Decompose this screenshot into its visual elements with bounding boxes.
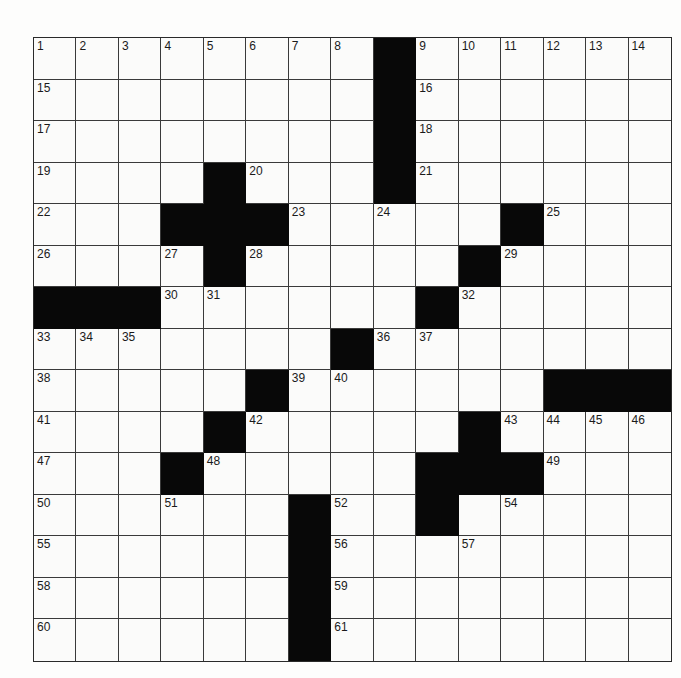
grid-cell[interactable] xyxy=(246,329,288,371)
grid-cell[interactable] xyxy=(331,287,373,329)
grid-cell[interactable]: 44 xyxy=(544,412,586,454)
grid-cell[interactable] xyxy=(119,578,161,620)
grid-cell[interactable]: 25 xyxy=(544,204,586,246)
grid-cell[interactable] xyxy=(629,453,671,495)
grid-cell[interactable] xyxy=(331,412,373,454)
grid-cell[interactable]: 22 xyxy=(34,204,76,246)
grid-cell[interactable] xyxy=(331,246,373,288)
grid-cell[interactable] xyxy=(544,287,586,329)
grid-cell[interactable] xyxy=(76,246,118,288)
grid-cell[interactable] xyxy=(119,412,161,454)
grid-cell[interactable]: 38 xyxy=(34,370,76,412)
grid-cell[interactable] xyxy=(204,121,246,163)
grid-cell[interactable]: 36 xyxy=(374,329,416,371)
grid-cell[interactable]: 9 xyxy=(416,38,458,80)
grid-cell[interactable]: 1 xyxy=(34,38,76,80)
grid-cell[interactable] xyxy=(586,578,628,620)
grid-cell[interactable] xyxy=(161,536,203,578)
grid-cell[interactable]: 58 xyxy=(34,578,76,620)
grid-cell[interactable] xyxy=(629,619,671,661)
grid-cell[interactable] xyxy=(76,619,118,661)
grid-cell[interactable] xyxy=(544,578,586,620)
grid-cell[interactable] xyxy=(459,495,501,537)
grid-cell[interactable] xyxy=(501,121,543,163)
grid-cell[interactable] xyxy=(586,204,628,246)
grid-cell[interactable] xyxy=(459,370,501,412)
grid-cell[interactable] xyxy=(416,536,458,578)
grid-cell[interactable] xyxy=(501,329,543,371)
grid-cell[interactable]: 46 xyxy=(629,412,671,454)
grid-cell[interactable] xyxy=(586,121,628,163)
grid-cell[interactable] xyxy=(586,329,628,371)
grid-cell[interactable]: 24 xyxy=(374,204,416,246)
grid-cell[interactable]: 20 xyxy=(246,163,288,205)
grid-cell[interactable] xyxy=(161,121,203,163)
grid-cell[interactable] xyxy=(544,536,586,578)
grid-cell[interactable]: 47 xyxy=(34,453,76,495)
grid-cell[interactable] xyxy=(586,80,628,122)
grid-cell[interactable] xyxy=(204,578,246,620)
grid-cell[interactable] xyxy=(204,370,246,412)
grid-cell[interactable] xyxy=(501,536,543,578)
grid-cell[interactable]: 4 xyxy=(161,38,203,80)
grid-cell[interactable] xyxy=(289,246,331,288)
grid-cell[interactable]: 54 xyxy=(501,495,543,537)
grid-cell[interactable] xyxy=(76,536,118,578)
grid-cell[interactable] xyxy=(289,287,331,329)
grid-cell[interactable]: 30 xyxy=(161,287,203,329)
grid-cell[interactable] xyxy=(629,287,671,329)
grid-cell[interactable] xyxy=(161,412,203,454)
grid-cell[interactable]: 17 xyxy=(34,121,76,163)
grid-cell[interactable] xyxy=(331,80,373,122)
grid-cell[interactable]: 51 xyxy=(161,495,203,537)
grid-cell[interactable] xyxy=(374,412,416,454)
grid-cell[interactable] xyxy=(374,495,416,537)
grid-cell[interactable] xyxy=(161,163,203,205)
grid-cell[interactable] xyxy=(544,329,586,371)
grid-cell[interactable] xyxy=(586,495,628,537)
grid-cell[interactable]: 14 xyxy=(629,38,671,80)
grid-cell[interactable]: 6 xyxy=(246,38,288,80)
grid-cell[interactable] xyxy=(119,121,161,163)
grid-cell[interactable]: 56 xyxy=(331,536,373,578)
grid-cell[interactable] xyxy=(374,536,416,578)
grid-cell[interactable] xyxy=(416,204,458,246)
grid-cell[interactable] xyxy=(629,80,671,122)
grid-cell[interactable]: 27 xyxy=(161,246,203,288)
grid-cell[interactable]: 26 xyxy=(34,246,76,288)
grid-cell[interactable] xyxy=(161,619,203,661)
grid-cell[interactable]: 41 xyxy=(34,412,76,454)
grid-cell[interactable] xyxy=(204,80,246,122)
grid-cell[interactable] xyxy=(161,370,203,412)
grid-cell[interactable]: 8 xyxy=(331,38,373,80)
grid-cell[interactable] xyxy=(544,246,586,288)
grid-cell[interactable] xyxy=(76,412,118,454)
grid-cell[interactable] xyxy=(501,370,543,412)
grid-cell[interactable] xyxy=(586,246,628,288)
grid-cell[interactable] xyxy=(289,453,331,495)
grid-cell[interactable] xyxy=(374,370,416,412)
grid-cell[interactable] xyxy=(289,163,331,205)
grid-cell[interactable] xyxy=(629,246,671,288)
grid-cell[interactable] xyxy=(246,287,288,329)
grid-cell[interactable] xyxy=(586,453,628,495)
grid-cell[interactable] xyxy=(416,578,458,620)
grid-cell[interactable] xyxy=(629,495,671,537)
grid-cell[interactable]: 5 xyxy=(204,38,246,80)
grid-cell[interactable]: 3 xyxy=(119,38,161,80)
grid-cell[interactable] xyxy=(629,329,671,371)
grid-cell[interactable] xyxy=(331,163,373,205)
grid-cell[interactable]: 60 xyxy=(34,619,76,661)
grid-cell[interactable] xyxy=(374,246,416,288)
grid-cell[interactable] xyxy=(204,495,246,537)
grid-cell[interactable]: 55 xyxy=(34,536,76,578)
grid-cell[interactable]: 37 xyxy=(416,329,458,371)
grid-cell[interactable] xyxy=(289,121,331,163)
grid-cell[interactable] xyxy=(374,619,416,661)
grid-cell[interactable]: 2 xyxy=(76,38,118,80)
grid-cell[interactable] xyxy=(161,578,203,620)
grid-cell[interactable] xyxy=(119,246,161,288)
grid-cell[interactable]: 33 xyxy=(34,329,76,371)
grid-cell[interactable] xyxy=(331,204,373,246)
grid-cell[interactable] xyxy=(119,370,161,412)
